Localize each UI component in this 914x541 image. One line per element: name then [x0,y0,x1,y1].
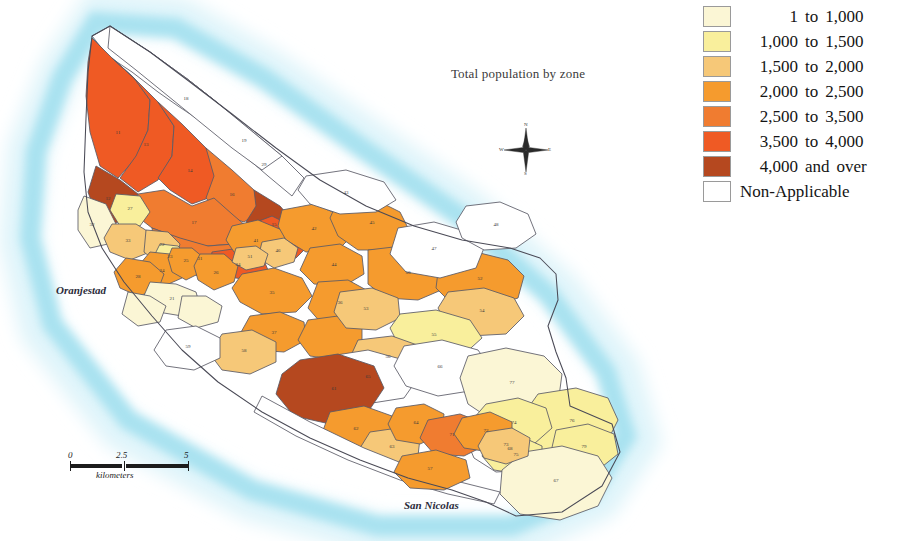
svg-text:25: 25 [184,258,190,263]
svg-text:73: 73 [504,442,510,447]
svg-text:27: 27 [128,206,134,211]
svg-text:33: 33 [126,238,132,243]
svg-text:12: 12 [106,196,112,201]
legend-row[interactable]: 2,500to3,500 [700,104,914,129]
compass-west-label: W [499,147,504,152]
svg-text:17: 17 [192,220,198,225]
legend-range-low: 3,500 [740,132,798,152]
legend-range-low: 4,000 [740,157,798,177]
legend-label: Non-Applicable [731,182,914,202]
svg-text:62: 62 [354,426,360,431]
svg-text:77: 77 [510,380,516,385]
place-label-oranjestad: Oranjestad [56,284,106,296]
legend-label: 1,500to2,000 [731,57,914,77]
scale-label-min: 0 [68,450,73,460]
legend-range-low: 1,500 [740,57,798,77]
legend-range-high: 3,500 [825,107,863,127]
legend-swatch [703,181,731,202]
compass-rose: N S E W [498,122,554,178]
legend-swatch [703,81,731,102]
svg-text:50: 50 [406,270,412,275]
legend-range-high: 1,000 [825,7,863,27]
svg-text:36: 36 [338,300,344,305]
legend-range-high: 1,500 [825,32,863,52]
compass-east-label: E [548,147,551,152]
scale-segment-first [70,464,122,468]
legend-label: 4,000andover [731,157,914,177]
legend-label: 1to1,000 [731,7,914,27]
svg-text:28: 28 [136,274,142,279]
legend-row[interactable]: Non-Applicable [700,179,914,204]
compass-south-label: S [524,171,527,176]
legend-swatch [703,56,731,77]
legend-row[interactable]: 1,500to2,000 [700,54,914,79]
svg-text:66: 66 [438,364,444,369]
svg-text:21: 21 [170,296,176,301]
svg-text:23: 23 [168,254,174,259]
legend-swatch [703,156,731,177]
legend-range-connector: to [798,82,825,102]
svg-text:54: 54 [480,308,486,313]
legend-range-high: 4,000 [825,132,863,152]
svg-text:46: 46 [276,248,282,253]
svg-text:55: 55 [432,332,438,337]
place-label-san-nicolas: San Nicolas [404,499,459,511]
legend-row[interactable]: 1to1,000 [700,4,914,29]
legend-label: 3,500to4,000 [731,132,914,152]
svg-text:59: 59 [186,344,192,349]
legend-row[interactable]: 2,000to2,500 [700,79,914,104]
svg-text:35: 35 [270,290,276,295]
compass-north-label: N [524,122,528,127]
legend-row[interactable]: 3,500to4,000 [700,129,914,154]
svg-text:42: 42 [312,226,318,231]
svg-text:37: 37 [272,330,278,335]
svg-text:13: 13 [144,142,150,147]
compass-rose-icon [498,122,554,178]
svg-text:26: 26 [214,270,220,275]
legend-range-connector: to [798,107,825,127]
svg-text:74: 74 [512,420,518,425]
scale-label-mid: 2.5 [116,450,127,460]
svg-text:76: 76 [570,418,576,423]
svg-text:64: 64 [414,420,420,425]
legend-range-connector: to [798,57,825,77]
svg-text:15: 15 [272,222,278,227]
legend-row[interactable]: 1,000to1,500 [700,29,914,54]
legend-range-low: 2,500 [740,107,798,127]
svg-text:58: 58 [242,348,248,353]
svg-text:22: 22 [160,242,166,247]
legend-swatch [703,106,731,127]
svg-text:11: 11 [116,130,121,135]
svg-text:18: 18 [184,96,190,101]
svg-text:47: 47 [432,246,438,251]
map-title: Total population by zone [418,66,618,82]
legend-range-low: 1 [740,7,798,27]
svg-text:52: 52 [478,276,484,281]
zone-zz-2[interactable] [178,296,222,328]
legend-range-connector: to [798,132,825,152]
legend-swatch [703,131,731,152]
legend-label-text: Non-Applicable [740,182,850,202]
svg-text:31: 31 [198,256,204,261]
svg-text:53: 53 [364,306,370,311]
svg-text:16: 16 [230,192,236,197]
legend-row[interactable]: 4,000andover [700,154,914,179]
svg-text:61: 61 [332,386,338,391]
legend-range-high: over [837,157,867,177]
legend-range-connector: to [798,32,825,52]
svg-text:24: 24 [160,268,166,273]
svg-text:43: 43 [344,190,350,195]
svg-text:41: 41 [254,238,260,243]
svg-text:56: 56 [386,354,392,359]
map-legend: 1to1,0001,000to1,5001,500to2,0002,000to2… [700,4,914,204]
legend-range-high: 2,000 [825,57,863,77]
svg-text:71: 71 [450,432,456,437]
svg-text:14: 14 [188,168,194,173]
svg-text:19: 19 [242,138,248,143]
legend-range-low: 2,000 [740,82,798,102]
svg-text:57: 57 [428,466,434,471]
svg-text:65: 65 [366,374,372,379]
legend-range-connector: and [798,157,837,177]
svg-text:48: 48 [494,222,500,227]
scale-bar: 0 2.5 5 kilometers [60,450,210,490]
